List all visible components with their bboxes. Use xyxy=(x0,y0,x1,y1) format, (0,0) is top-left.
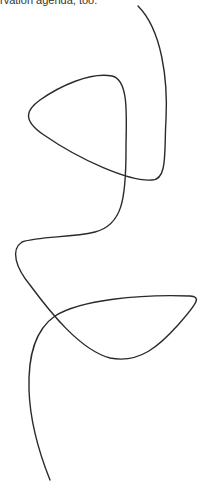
continuous-line-drawing xyxy=(0,0,208,488)
